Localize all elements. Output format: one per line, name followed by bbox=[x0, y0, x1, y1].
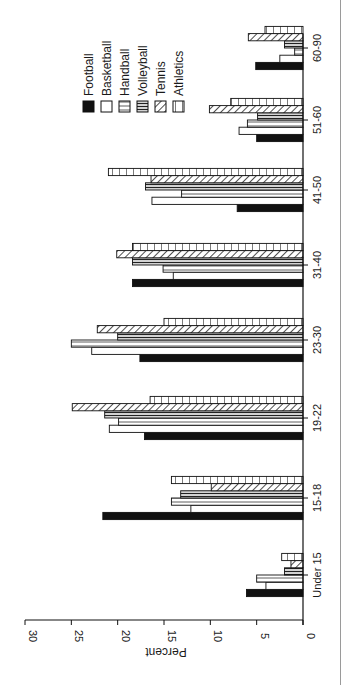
category-label: 51-60 bbox=[311, 106, 323, 134]
legend-swatch bbox=[101, 101, 112, 112]
bar bbox=[171, 476, 303, 483]
legend-label: Tennis bbox=[154, 61, 168, 96]
bar-group bbox=[209, 98, 303, 141]
bar bbox=[239, 127, 303, 134]
category-label: 31-40 bbox=[311, 251, 323, 279]
tick-label: 0 bbox=[305, 633, 317, 639]
bar-group bbox=[72, 396, 303, 439]
bar-group bbox=[103, 476, 303, 519]
legend-swatch bbox=[155, 101, 166, 112]
legend-label: Basketball bbox=[100, 41, 114, 96]
legend-label: Handball bbox=[118, 49, 132, 96]
bar bbox=[258, 113, 303, 120]
page-border bbox=[340, 0, 341, 685]
bar bbox=[182, 190, 303, 197]
tick-label: 25 bbox=[73, 630, 85, 642]
bar bbox=[181, 491, 303, 498]
bar bbox=[257, 575, 303, 582]
legend-item: Handball bbox=[118, 49, 132, 112]
bar bbox=[291, 561, 303, 568]
bar bbox=[152, 197, 303, 204]
bar bbox=[145, 183, 303, 190]
category-label: Under 15 bbox=[311, 552, 323, 597]
bar-group bbox=[248, 26, 303, 69]
legend-item: Basketball bbox=[100, 41, 114, 112]
bar bbox=[171, 498, 303, 505]
bar bbox=[151, 176, 303, 183]
bar bbox=[103, 512, 303, 519]
bar bbox=[237, 204, 303, 211]
legend-label: Volleyball bbox=[136, 45, 150, 96]
bar bbox=[280, 55, 303, 62]
legend-item: Tennis bbox=[154, 61, 168, 112]
bar bbox=[108, 168, 303, 175]
bar bbox=[295, 48, 303, 55]
bar bbox=[284, 568, 303, 575]
bar bbox=[248, 34, 303, 41]
category-label: 41-50 bbox=[311, 176, 323, 204]
bar bbox=[71, 340, 303, 347]
bar bbox=[246, 589, 303, 596]
legend-swatch bbox=[137, 101, 148, 112]
bar-group bbox=[108, 168, 303, 211]
bar bbox=[140, 354, 303, 361]
tick-label: 10 bbox=[212, 630, 224, 642]
bar-group bbox=[71, 318, 303, 361]
legend: FootballBasketballHandballVolleyballTenn… bbox=[82, 41, 186, 112]
bar bbox=[92, 347, 303, 354]
bar bbox=[132, 243, 303, 250]
bar bbox=[282, 553, 303, 560]
bar bbox=[97, 326, 303, 333]
bar bbox=[119, 418, 303, 425]
bar bbox=[72, 404, 303, 411]
bar bbox=[266, 582, 303, 589]
legend-swatch bbox=[173, 101, 184, 112]
tick-label: 20 bbox=[120, 630, 132, 642]
category-label: 23-30 bbox=[311, 326, 323, 354]
bar bbox=[231, 98, 303, 105]
legend-item: Athletics bbox=[172, 51, 186, 112]
bar bbox=[117, 251, 303, 258]
tick-label: 30 bbox=[27, 630, 39, 642]
category-label: 19-22 bbox=[311, 404, 323, 432]
legend-swatch bbox=[83, 101, 94, 112]
bar bbox=[247, 120, 303, 127]
tick-label: 5 bbox=[259, 633, 271, 639]
bar bbox=[118, 333, 303, 340]
category-label: 15-18 bbox=[311, 484, 323, 512]
category-axis: Under 1515-1819-2223-3031-4041-5051-6060… bbox=[303, 34, 323, 598]
bar bbox=[209, 106, 303, 113]
bar bbox=[163, 265, 303, 272]
axis-title: Percent bbox=[145, 645, 187, 659]
bar bbox=[191, 505, 303, 512]
bar bbox=[109, 425, 303, 432]
grouped-bar-chart: 051015202530Percent Under 1515-1819-2223… bbox=[0, 0, 343, 685]
bar bbox=[132, 279, 303, 286]
legend-item: Football bbox=[82, 53, 96, 112]
bar bbox=[145, 432, 303, 439]
bar bbox=[105, 411, 303, 418]
legend-item: Volleyball bbox=[136, 45, 150, 112]
bar bbox=[256, 62, 303, 69]
tick-label: 15 bbox=[166, 630, 178, 642]
legend-swatch bbox=[119, 101, 130, 112]
bar bbox=[211, 484, 303, 491]
bar bbox=[257, 134, 303, 141]
bar-group bbox=[117, 243, 303, 286]
bar bbox=[265, 26, 303, 33]
bar bbox=[150, 396, 303, 403]
category-label: 60-90 bbox=[311, 34, 323, 62]
bar bbox=[284, 41, 303, 48]
bar-group bbox=[246, 553, 303, 596]
bar bbox=[164, 318, 303, 325]
legend-label: Athletics bbox=[172, 51, 186, 96]
bar bbox=[173, 272, 303, 279]
bar bbox=[132, 258, 303, 265]
chart-canvas: 051015202530Percent Under 1515-1819-2223… bbox=[0, 0, 343, 685]
legend-label: Football bbox=[82, 53, 96, 96]
